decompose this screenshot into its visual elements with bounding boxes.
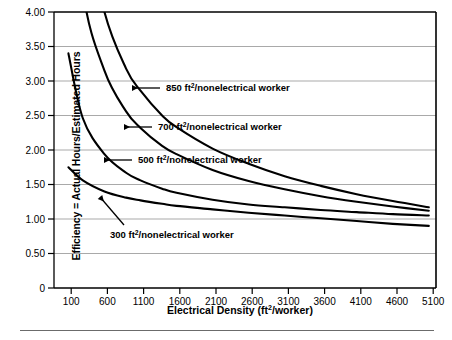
annotation-label-700: 700 ft2/nonelectrical worker xyxy=(158,121,282,132)
y-axis-title: Efficiency = Actual Hours/Estimated Hour… xyxy=(70,26,82,286)
x-axis-title-post: /worker) xyxy=(272,304,313,316)
y-tick-label: 1.00 xyxy=(26,214,46,225)
annotation-label-850: 850 ft2/nonelectrical worker xyxy=(166,82,290,93)
y-tick-label: 3.50 xyxy=(26,41,46,52)
x-ticks xyxy=(71,288,433,294)
x-axis-title: Electrical Density (ft2/worker) xyxy=(0,304,452,316)
chart-figure: 0 0.50 1.00 1.50 2.00 2.50 3.00 3.50 4.0… xyxy=(0,0,452,340)
bottom-rule xyxy=(20,330,434,331)
y-ticks xyxy=(48,12,54,288)
efficiency-vs-electrical-density-chart: 0 0.50 1.00 1.50 2.00 2.50 3.00 3.50 4.0… xyxy=(0,0,452,340)
annotation-label-300: 300 ft2/nonelectrical worker xyxy=(110,229,234,240)
y-tick-label: 2.50 xyxy=(26,110,46,121)
y-tick-label: 4.00 xyxy=(26,7,46,18)
annotation-label-500: 500 ft2/nonelectrical worker xyxy=(138,154,262,165)
y-tick-label: 1.50 xyxy=(26,179,46,190)
y-tick-label: 0.50 xyxy=(26,248,46,259)
x-axis-title-pre: Electrical Density (ft xyxy=(167,304,268,316)
y-tick-label: 0 xyxy=(39,283,45,294)
y-tick-label: 3.00 xyxy=(26,76,46,87)
y-tick-label: 2.00 xyxy=(26,145,46,156)
y-tick-labels: 0 0.50 1.00 1.50 2.00 2.50 3.00 3.50 4.0… xyxy=(26,7,46,294)
